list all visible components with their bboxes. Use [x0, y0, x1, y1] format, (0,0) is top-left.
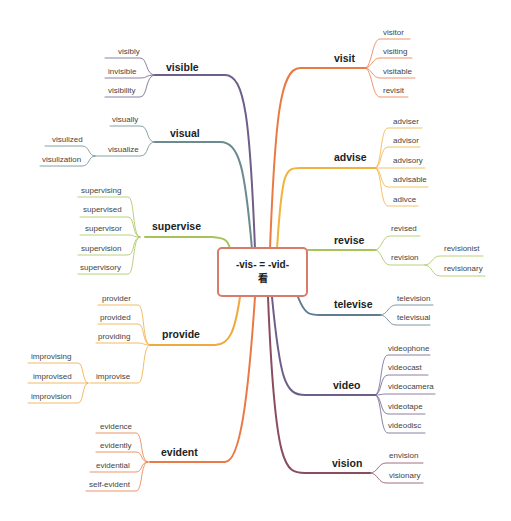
leaf-improvised[interactable]: improvised [33, 373, 72, 381]
leaf-adviser[interactable]: adviser [393, 118, 419, 126]
central-topic[interactable]: -vis- = -vid- 看 [217, 247, 308, 297]
leaf-evidential[interactable]: evidential [96, 462, 130, 470]
leaf-supervising[interactable]: supervising [81, 187, 121, 195]
leaf-provided[interactable]: provided [100, 314, 131, 322]
leaf-evidently[interactable]: evidently [100, 442, 132, 450]
leaf-adivce[interactable]: adivce [393, 196, 416, 204]
leaf-advisory[interactable]: advisory [393, 157, 423, 165]
leaf-visibly[interactable]: visibly [118, 48, 140, 56]
node-video[interactable]: video [333, 380, 360, 391]
node-evident[interactable]: evident [161, 447, 198, 458]
leaf-improvising[interactable]: improvising [31, 353, 71, 361]
node-improvise[interactable]: improvise [96, 373, 130, 381]
leaf-invisible[interactable]: invisible [108, 68, 136, 76]
leaf-envision[interactable]: envision [389, 452, 418, 460]
node-advise[interactable]: advise [334, 152, 367, 163]
node-visit[interactable]: visit [334, 53, 355, 64]
node-supervise[interactable]: supervise [152, 221, 201, 232]
leaf-self-evident[interactable]: self-evident [89, 481, 130, 489]
leaf-visually[interactable]: visually [112, 116, 138, 124]
leaf-revisionist[interactable]: revisionist [444, 245, 480, 253]
leaf-supervisor[interactable]: supervisor [85, 225, 122, 233]
central-topic-line1: -vis- = -vid- [236, 258, 289, 272]
leaf-visibility[interactable]: visibility [108, 87, 136, 95]
central-topic-line2: 看 [258, 272, 268, 286]
leaf-provider[interactable]: provider [102, 295, 131, 303]
leaf-visulized[interactable]: visulized [52, 136, 83, 144]
leaf-revised[interactable]: revised [391, 225, 417, 233]
node-visible[interactable]: visible [166, 62, 199, 73]
leaf-revisionary[interactable]: revisionary [444, 265, 483, 273]
node-visual[interactable]: visual [170, 128, 200, 139]
leaf-improvision[interactable]: improvision [31, 393, 71, 401]
leaf-visitable[interactable]: visitable [383, 68, 412, 76]
leaf-evidence[interactable]: evidence [100, 423, 132, 431]
leaf-visitor[interactable]: visitor [383, 29, 404, 37]
node-vision[interactable]: vision [332, 458, 362, 469]
leaf-videocamera[interactable]: videocamera [388, 383, 434, 391]
node-televise[interactable]: televise [334, 299, 373, 310]
leaf-providing[interactable]: providing [98, 333, 130, 341]
leaf-revisit[interactable]: revisit [383, 87, 404, 95]
leaf-videophone[interactable]: videophone [388, 345, 429, 353]
leaf-supervision[interactable]: supervision [81, 245, 121, 253]
leaf-supervisory[interactable]: supervisory [80, 264, 121, 272]
node-visualize[interactable]: visualize [108, 146, 139, 154]
leaf-television[interactable]: television [397, 295, 430, 303]
leaf-advisable[interactable]: advisable [393, 176, 427, 184]
leaf-visionary[interactable]: visionary [389, 472, 421, 480]
leaf-visiting[interactable]: visiting [383, 48, 407, 56]
leaf-advisor[interactable]: advisor [393, 137, 419, 145]
leaf-televisual[interactable]: televisual [397, 314, 430, 322]
leaf-videocast[interactable]: videocast [388, 364, 422, 372]
node-revision[interactable]: revision [391, 254, 419, 262]
node-provide[interactable]: provide [162, 329, 200, 340]
mind-map: -vis- = -vid- 看 visible visibly invisibl… [0, 0, 511, 521]
leaf-videotape[interactable]: videotape [388, 403, 423, 411]
leaf-visulization[interactable]: visulization [42, 156, 81, 164]
leaf-videodisc[interactable]: videodisc [388, 422, 421, 430]
node-revise[interactable]: revise [334, 235, 364, 246]
leaf-supervised[interactable]: supervised [83, 206, 122, 214]
